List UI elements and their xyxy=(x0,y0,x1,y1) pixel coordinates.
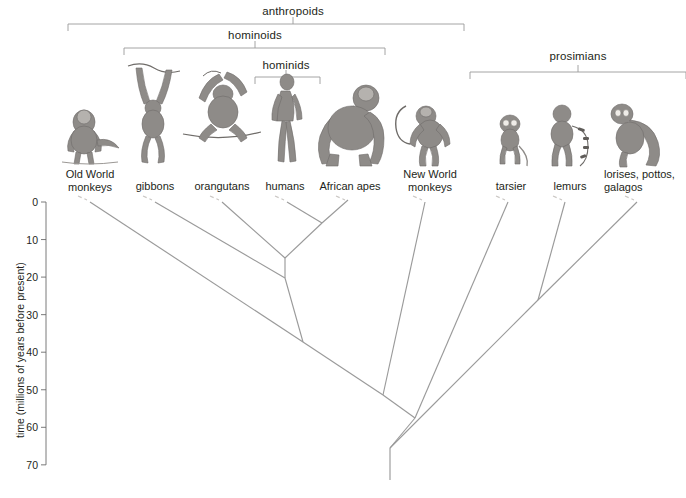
tree-branch-layer xyxy=(0,0,686,498)
lorises-branch xyxy=(538,202,637,300)
tip-leader-humans xyxy=(275,196,284,200)
y-axis-title: time (millions of years before present) xyxy=(14,268,26,438)
tip-leader-old-world-monkeys xyxy=(78,196,87,200)
tarsier-branch xyxy=(415,202,508,418)
strepsirrhine-stem xyxy=(390,300,538,448)
catarrhine-stem xyxy=(303,342,383,395)
african-apes-branch xyxy=(322,200,348,223)
tip-leader-lemurs xyxy=(553,196,562,200)
axis-title-wrap: time (millions of years before present) xyxy=(0,0,20,498)
anthropoid-stem xyxy=(383,395,415,418)
figure-canvas: anthropoids hominoids hominids prosimian… xyxy=(0,0,686,498)
great-ape-stem xyxy=(285,223,322,258)
tip-leader-african-apes xyxy=(336,196,345,200)
tip-leader-gibbons xyxy=(143,196,152,200)
tip-leader-tarsier xyxy=(496,196,505,200)
humans-branch xyxy=(287,202,322,223)
tip-leader-lorises-pottos-galagos xyxy=(625,196,634,200)
tip-leader-new-world-monkeys xyxy=(413,196,422,200)
orangutans-branch xyxy=(222,202,285,258)
tip-leader-orangutans xyxy=(210,196,219,200)
lemurs-branch xyxy=(538,202,565,300)
old-world-monkeys-branch xyxy=(90,202,303,342)
new-world-monkeys-branch xyxy=(383,202,425,395)
